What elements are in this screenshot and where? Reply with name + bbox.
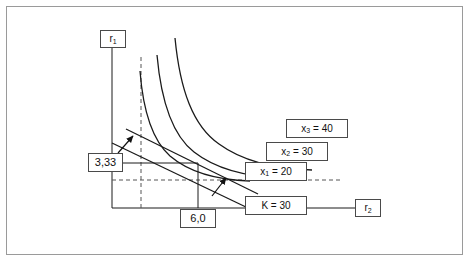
plot-canvas <box>0 0 471 263</box>
direction-arrow-output <box>212 178 226 196</box>
x-tick-value-text: 6,0 <box>190 213 205 224</box>
isoquant-label-box-x1: x1= 20 <box>245 162 307 181</box>
isoquant-label-x2-subscript: 2 <box>286 150 290 157</box>
isoquant-curve-x2 <box>157 55 283 178</box>
isoquant-label-x2-eq: = 30 <box>293 147 313 157</box>
y-tick-value-text: 3,33 <box>95 157 116 168</box>
y-axis-label-box: r1 <box>100 30 126 48</box>
isoquant-label-x1-eq: = 20 <box>272 167 292 177</box>
y-tick-value-box: 3,33 <box>88 153 123 172</box>
isocost-label-k30-text: K = 30 <box>261 201 290 211</box>
isocost-line-upper <box>126 129 258 194</box>
x-tick-value-box: 6,0 <box>180 209 216 228</box>
x-axis-label-subscript: 2 <box>368 207 372 214</box>
y-axis-label-subscript: 1 <box>113 38 117 45</box>
figure-root: r1 r2 3,33 6,0 x1= 20 x2= 30 x3= 40 K = … <box>0 0 471 263</box>
isoquant-label-box-x3: x3= 40 <box>286 119 348 138</box>
direction-arrow-cost <box>118 136 133 153</box>
isocost-line-k30 <box>112 143 248 208</box>
x-axis-label-box: r2 <box>355 199 381 217</box>
isoquant-label-x1-subscript: 1 <box>265 170 269 177</box>
isoquant-label-x3-eq: = 40 <box>313 124 333 134</box>
isocost-label-box-k30: K = 30 <box>245 196 307 215</box>
isoquant-label-x3-subscript: 3 <box>306 127 310 134</box>
isoquant-label-box-x2: x2= 30 <box>266 142 328 161</box>
